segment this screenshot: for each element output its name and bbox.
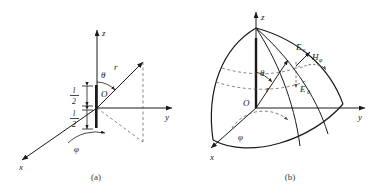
panel-a-phi-arc bbox=[68, 132, 105, 143]
panel-a-theta-label: θ bbox=[101, 70, 106, 80]
panel-b-Hphi-base: H bbox=[311, 52, 319, 62]
panel-b-Hphi-sub: φ bbox=[319, 57, 323, 63]
diagram-svg: z y x r θ φ l bbox=[0, 0, 385, 193]
panel-a-caption: (a) bbox=[91, 172, 101, 182]
panel-a-projection-ground bbox=[97, 108, 143, 142]
panel-b-y-axis-label: y bbox=[357, 112, 362, 122]
panel-b-Etheta-label: E θ bbox=[299, 84, 310, 95]
panel-b-x-axis-label: x bbox=[209, 152, 214, 162]
panel-a-lower-fraction: l 2 bbox=[70, 109, 79, 129]
panel-a-dipole-conductor bbox=[95, 85, 98, 128]
panel-b-Er-base: E bbox=[295, 42, 302, 52]
panel-b-caption: (b) bbox=[285, 172, 296, 182]
panel-b-Etheta-base: E bbox=[299, 84, 306, 94]
panel-b-z-axis-label: z bbox=[260, 12, 265, 22]
panel-b-meridian-inner-2 bbox=[256, 28, 328, 134]
panel-a-upper-fraction-denominator: 2 bbox=[72, 97, 76, 106]
panel-a-origin-label: O bbox=[101, 89, 108, 99]
panel-a-r-label: r bbox=[114, 62, 118, 72]
panel-b-origin-label: O bbox=[243, 98, 250, 108]
panel-a-r-vector bbox=[97, 62, 143, 108]
panel-b-equator-arc bbox=[213, 104, 343, 148]
panel-b-latitude-arc-lower bbox=[216, 80, 308, 89]
panel-b-Er-label: E r bbox=[295, 42, 306, 53]
panel-b-Hphi-arc bbox=[300, 64, 326, 70]
panel-a-phi-label: φ bbox=[74, 144, 79, 154]
panel-b-phi-arc bbox=[232, 111, 288, 128]
panel-a-lower-fraction-numerator: l bbox=[73, 109, 76, 118]
panel-b-Etheta-sub: θ bbox=[307, 89, 310, 95]
panel-b-meridian-xz bbox=[211, 28, 256, 140]
panel-b: z y x r θ φ bbox=[202, 12, 365, 182]
panel-a-x-axis bbox=[22, 108, 97, 160]
panel-a-x-axis-label: x bbox=[18, 162, 23, 172]
panel-b-dipole-conductor bbox=[255, 38, 257, 108]
panel-a-z-axis-label: z bbox=[101, 28, 106, 38]
figure-container: z y x r θ φ l bbox=[0, 0, 385, 193]
panel-b-meridian-inner-1 bbox=[256, 28, 300, 146]
panel-b-theta-label: θ bbox=[260, 68, 265, 78]
panel-a: z y x r θ φ l bbox=[18, 28, 172, 182]
panel-a-upper-fraction: l 2 bbox=[70, 86, 79, 106]
panel-a-y-axis-label: y bbox=[164, 112, 169, 122]
panel-a-lower-fraction-denominator: 2 bbox=[72, 120, 76, 129]
panel-b-Er-vector bbox=[296, 52, 310, 66]
panel-b-Hphi-label: H φ bbox=[311, 52, 323, 63]
panel-a-upper-fraction-numerator: l bbox=[73, 86, 76, 95]
panel-b-phi-label: φ bbox=[238, 132, 243, 142]
